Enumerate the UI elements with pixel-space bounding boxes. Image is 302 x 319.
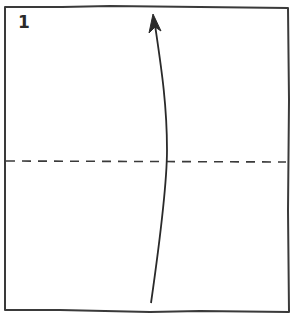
- fold-arrow-shaft: [151, 18, 167, 303]
- valley-fold-dashed-line: [6, 161, 286, 162]
- paper-outline: [5, 6, 289, 312]
- step-number: 1: [18, 14, 30, 31]
- fold-diagram: [0, 0, 302, 319]
